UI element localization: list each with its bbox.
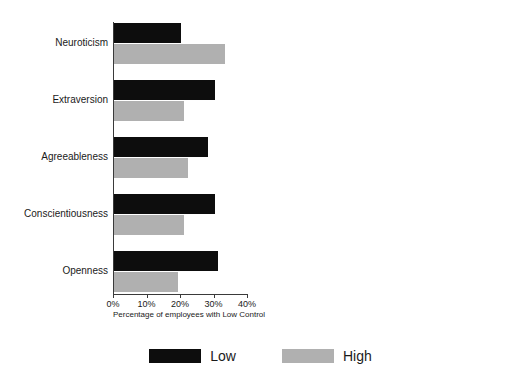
category-label: Extraversion	[52, 94, 108, 106]
bar-rows-left: Neuroticism Extraversion Agreeableness	[114, 22, 247, 294]
bar-high	[114, 44, 225, 64]
legend-swatch-high	[282, 349, 334, 363]
category-label: Neuroticism	[55, 37, 108, 49]
bar-low	[114, 194, 215, 214]
tick-mark	[247, 294, 248, 298]
figure: Neuroticism Extraversion Agreeableness	[0, 0, 521, 388]
category-label: Openness	[62, 265, 108, 277]
bar-low	[114, 251, 218, 271]
legend-label-low: Low	[210, 348, 236, 364]
tick-mark	[214, 294, 215, 298]
category-label: Conscientiousness	[24, 208, 108, 220]
tick-mark	[180, 294, 181, 298]
tick-label: 10%	[137, 299, 155, 310]
bar-high	[114, 272, 178, 292]
chart-panel-eri: Neuroticism Extraversion Agreeableness	[268, 0, 521, 338]
legend: Low High	[0, 348, 521, 364]
bar-low	[114, 23, 181, 43]
legend-entry-high: High	[282, 348, 372, 364]
tick-mark	[113, 294, 114, 298]
bar-row: Extraversion	[114, 79, 247, 123]
tick-label: 0%	[106, 299, 119, 310]
legend-entry-low: Low	[149, 348, 236, 364]
plot-area-left: Neuroticism Extraversion Agreeableness	[113, 22, 247, 294]
bar-high	[114, 101, 184, 121]
chart-panel-low-control: Neuroticism Extraversion Agreeableness	[0, 0, 268, 338]
bar-low	[114, 80, 215, 100]
panel-container: Neuroticism Extraversion Agreeableness	[0, 0, 521, 338]
bar-row: Neuroticism	[114, 22, 247, 66]
bar-high	[114, 158, 188, 178]
tick-label: 30%	[204, 299, 222, 310]
tick-label: 40%	[238, 299, 256, 310]
legend-label-high: High	[343, 348, 372, 364]
tick-label: 20%	[171, 299, 189, 310]
bar-low	[114, 137, 208, 157]
bar-row: Agreeableness	[114, 136, 247, 180]
bar-row: Conscientiousness	[114, 193, 247, 237]
tick-mark	[147, 294, 148, 298]
x-axis-title: Percentage of employees with Low Control	[113, 310, 247, 320]
bar-row: Openness	[114, 250, 247, 294]
bar-high	[114, 215, 184, 235]
legend-swatch-low	[149, 349, 201, 363]
category-label: Agreeableness	[41, 151, 108, 163]
